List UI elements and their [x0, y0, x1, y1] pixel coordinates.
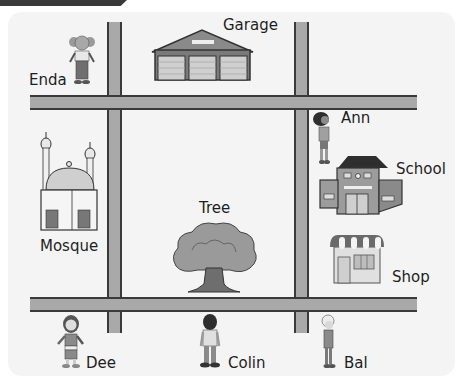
junction — [296, 97, 307, 108]
garage-label: Garage — [223, 16, 278, 34]
dee-label: Dee — [86, 354, 116, 372]
junction — [109, 97, 120, 108]
tree-label: Tree — [199, 199, 230, 217]
header-bar — [0, 0, 127, 6]
road-vertical-left — [107, 22, 122, 333]
shop-label: Shop — [392, 268, 430, 286]
junction — [296, 299, 307, 310]
bal-label: Bal — [344, 354, 368, 372]
colin-label: Colin — [228, 354, 266, 372]
mosque-label: Mosque — [40, 237, 98, 255]
garage-icon — [150, 28, 255, 82]
mosque-icon — [36, 132, 102, 232]
shop-icon — [328, 231, 386, 285]
road-vertical-right — [294, 22, 309, 333]
ann-label: Ann — [341, 109, 370, 127]
person-icon-enda — [68, 34, 96, 86]
school-label: School — [396, 160, 446, 178]
road-horizontal-bottom — [30, 297, 417, 312]
person-icon-bal — [318, 314, 338, 372]
tree-icon — [170, 220, 258, 294]
road-horizontal-top — [30, 95, 417, 110]
school-icon — [318, 154, 406, 216]
enda-label: Enda — [29, 71, 67, 89]
person-icon-dee — [55, 314, 85, 370]
junction — [109, 299, 120, 310]
person-icon-colin — [197, 314, 223, 370]
